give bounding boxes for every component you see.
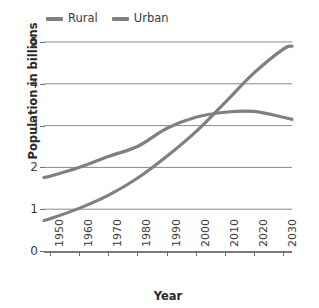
- x-axis-title: Year: [44, 289, 292, 303]
- x-tick-mark-1960: [79, 251, 80, 256]
- x-tick-label-1950: 1950: [54, 219, 65, 259]
- x-tick-label-2020: 2020: [258, 219, 269, 259]
- chart-container: Rural Urban 543210 Population in billion…: [0, 0, 319, 308]
- x-tick-label-2010: 2010: [229, 219, 240, 259]
- legend-swatch-rural-icon: [46, 17, 63, 21]
- chart-legend: Rural Urban: [46, 13, 169, 25]
- x-tick-mark-1970: [108, 251, 109, 256]
- legend-swatch-urban-icon: [112, 17, 129, 21]
- x-tick-mark-2030: [283, 251, 284, 256]
- x-tick-label-2030: 2030: [287, 219, 298, 259]
- y-tick-mark-2: [40, 167, 45, 168]
- x-tick-label-2000: 2000: [200, 219, 211, 259]
- legend-entry-urban[interactable]: Urban: [112, 13, 169, 25]
- x-tick-mark-2020: [254, 251, 255, 256]
- gridlines: [44, 42, 292, 209]
- x-tick-label-1960: 1960: [83, 219, 94, 259]
- x-tick-label-1990: 1990: [171, 219, 182, 259]
- y-tick-mark-3: [40, 126, 45, 127]
- y-tick-label-1: 1: [24, 203, 38, 215]
- y-axis-title: Population in billions: [26, 1, 40, 181]
- x-tick-mark-2010: [225, 251, 226, 256]
- series-lines: [44, 46, 292, 220]
- y-tick-label-0: 0: [24, 245, 38, 257]
- legend-entry-rural[interactable]: Rural: [46, 13, 98, 25]
- x-tick-mark-1990: [167, 251, 168, 256]
- legend-label-urban: Urban: [134, 13, 169, 25]
- y-tick-mark-5: [40, 42, 45, 43]
- x-tick-label-1970: 1970: [112, 219, 123, 259]
- y-tick-mark-0: [40, 251, 45, 252]
- x-tick-mark-1980: [137, 251, 138, 256]
- y-tick-mark-1: [40, 209, 45, 210]
- y-tick-mark-4: [40, 84, 45, 85]
- x-tick-label-1980: 1980: [141, 219, 152, 259]
- x-tick-mark-1950: [50, 251, 51, 256]
- x-tick-mark-2000: [196, 251, 197, 256]
- legend-label-rural: Rural: [68, 13, 98, 25]
- series-line-urban: [44, 46, 292, 220]
